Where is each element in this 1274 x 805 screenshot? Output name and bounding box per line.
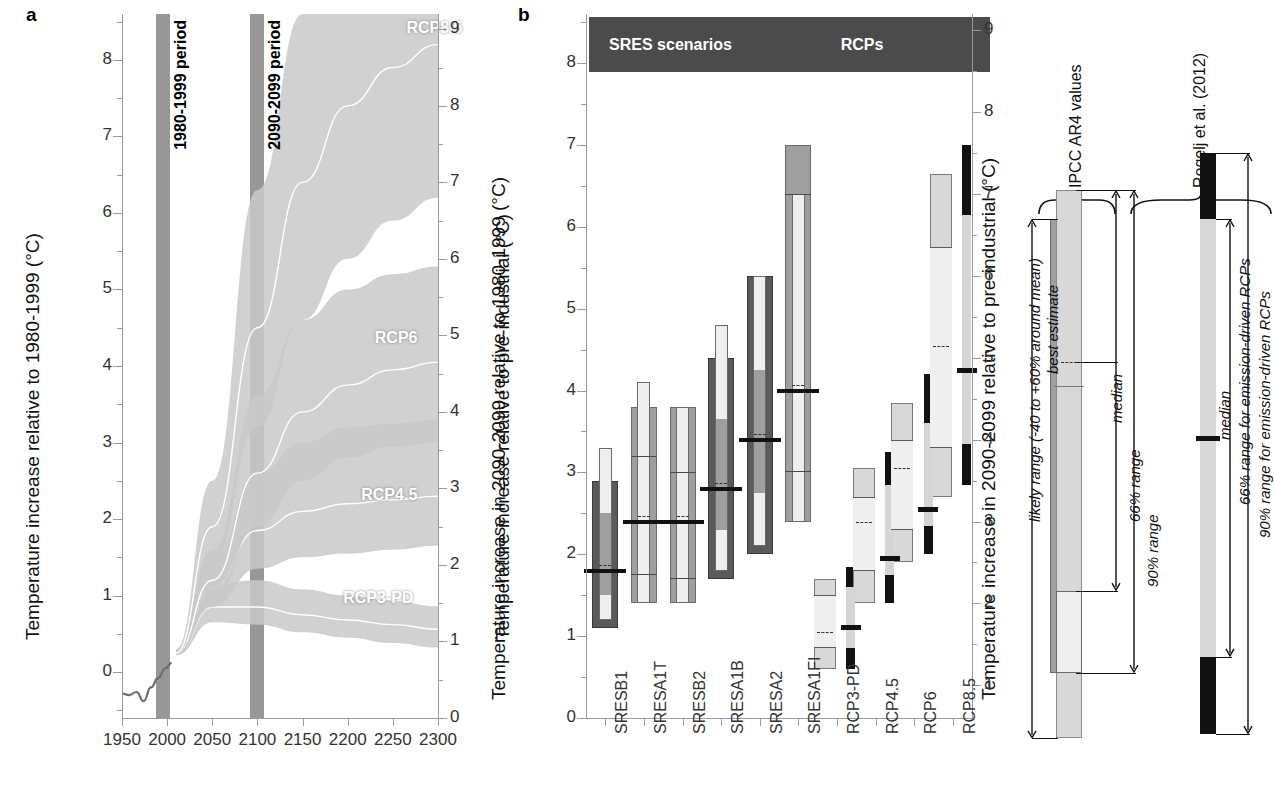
panel-a-bottom-axis (122, 718, 439, 719)
median-dash-SRESB1 (599, 565, 611, 566)
rogelj-66-range-SRESA1FI (785, 194, 811, 472)
panel-a-xtick (167, 718, 168, 726)
panel-a-ytick (113, 136, 122, 137)
legend-rogelj-66-top-leader (1216, 219, 1232, 220)
figure-root: a Temperature increase relative to 1980-… (0, 0, 1274, 805)
panel-a-xtick (212, 718, 213, 726)
rcp-black-66-RCP3-PD (846, 587, 855, 648)
category-label-RCP3-PD: RCP3-PD (845, 664, 863, 734)
panel-b-ytick-right-label: 2 (984, 592, 993, 612)
panel-b-ytick-right-label: 3 (984, 511, 993, 531)
panel-b-ytick-right-minor (972, 644, 977, 645)
category-label-RCP8.5: RCP8.5 (961, 678, 979, 734)
legend-annot-best-estimate: best estimate (1044, 285, 1061, 374)
panel-b-ytick-minor (581, 186, 586, 187)
panel-b-ytick-label: 5 (554, 298, 576, 318)
legend-annot-likely-range: likely range (-40 to +60% around mean) (1026, 258, 1043, 522)
panel-a-ytick-minor (117, 98, 122, 99)
legend-likely-top-leader (1032, 219, 1058, 220)
panel-b-ytick-right (972, 603, 981, 604)
best-estimate-marker-SRESA2 (739, 438, 781, 442)
ar4-inner-mid-SRESB1 (599, 513, 612, 595)
observed-temperature-line (122, 663, 172, 701)
panel-b-ytick-right-label: 7 (984, 183, 993, 203)
panel-b-xtick (683, 718, 684, 726)
rcp-median-dash-RCP3-PD (817, 632, 833, 633)
legend-median-leader (1076, 362, 1118, 363)
panel-a-ytick-minor (117, 710, 122, 711)
rcp-median-dash-RCP4.5 (856, 522, 872, 523)
panel-a-ytick-right-label: 3 (450, 477, 459, 497)
legend-panel: IPCC AR4 valuesRogelj et al. (2012)likel… (1008, 0, 1274, 805)
panel-a-ytick (113, 443, 122, 444)
legend-ar4-best-estimate-line (1054, 386, 1084, 387)
panel-b-ytick (577, 554, 586, 555)
panel-b-ytick-label: 4 (554, 380, 576, 400)
panel-a-ytick-label: 5 (90, 278, 112, 298)
panel-a-ytick-right-label: 2 (450, 554, 459, 574)
category-label-RCP6: RCP6 (922, 691, 940, 734)
best-estimate-marker-SRESA1B (700, 487, 742, 491)
panel-b-ytick-right-minor (972, 562, 977, 563)
best-estimate-marker-SRESB1 (584, 569, 626, 573)
ar4-inner-mid-SRESA2 (753, 370, 766, 493)
panel-a-ytick (113, 519, 122, 520)
panel-b-ytick (577, 472, 586, 473)
panel-b-ytick-label: 2 (554, 543, 576, 563)
panel-b-left-axis (586, 14, 587, 718)
panel-b-ytick-right-minor (972, 235, 977, 236)
panel-b-ytick-right-minor (972, 71, 977, 72)
rcp-median-dash-RCP8.5 (933, 346, 949, 347)
panel-a-ytick-right-minor (438, 144, 443, 145)
median-dash-SRESA1B (715, 483, 727, 484)
category-label-RCP4.5: RCP4.5 (884, 678, 902, 734)
panel-b-ytick-minor (581, 350, 586, 351)
panel-a-ytick-right (438, 335, 447, 336)
legend-rogelj-66-bottom-leader (1216, 657, 1232, 658)
panel-b-ytick (577, 309, 586, 310)
legend-rogelj-90-bottom-leader (1216, 734, 1250, 735)
panel-b-ytick (577, 145, 586, 146)
panel-b-ytick-label: 1 (554, 625, 576, 645)
category-label-SRESA1T: SRESA1T (652, 661, 670, 734)
scenario-label-RCP3-PD: RCP3-PD (343, 589, 413, 607)
panel-a-ytick-right (438, 565, 447, 566)
panel-a-ytick-right (438, 182, 447, 183)
panel-a-ytick-right-minor (438, 374, 443, 375)
panel-b-ytick (577, 227, 586, 228)
panel-a-band-layer (0, 0, 508, 805)
panel-a-ytick-right-minor (438, 68, 443, 69)
panel-b-ytick-label: 3 (554, 461, 576, 481)
panel-a-ytick-minor (117, 251, 122, 252)
panel-a-ytick-right-minor (438, 527, 443, 528)
panel-a-left-axis (122, 14, 123, 718)
panel-b-ytick-right (972, 276, 981, 277)
median-dash-SRESA1T (638, 516, 650, 517)
best-estimate-marker-SRESA1T (623, 520, 665, 524)
panel-a-ytick-right (438, 106, 447, 107)
scenario-label-RCP6: RCP6 (375, 329, 418, 347)
panel-b-xtick (760, 718, 761, 726)
panel-a-ytick-minor (117, 328, 122, 329)
panel-b-ytick (577, 391, 586, 392)
ar4-inner-mid-SRESA1B (715, 419, 728, 530)
panel-b-ytick-label: 0 (554, 707, 576, 727)
panel-a-ytick-minor (117, 22, 122, 23)
panel-a-ytick-right-minor (438, 221, 443, 222)
panel-b-ytick-minor (581, 104, 586, 105)
panel-a-ytick-right-minor (438, 680, 443, 681)
panel-b-xtick (721, 718, 722, 726)
panel-a-ytick-right (438, 718, 447, 719)
panel-a-ytick-right-label: 7 (450, 171, 459, 191)
panel-a-xtick (257, 718, 258, 726)
panel-b-ytick (577, 636, 586, 637)
panel-a-ytick-right (438, 641, 447, 642)
legend-66-top-leader (1076, 190, 1136, 191)
panel-a-ytick-label: 8 (90, 49, 112, 69)
rcp-66-box-RCP3-PD (814, 595, 836, 648)
panel-a-ytick-right-label: 5 (450, 324, 459, 344)
panel-a-ytick-right-label: 8 (450, 95, 459, 115)
panel-b-xtick (605, 718, 606, 726)
panel-b-xtick (953, 718, 954, 726)
legend-annot-median: median (1108, 374, 1125, 423)
